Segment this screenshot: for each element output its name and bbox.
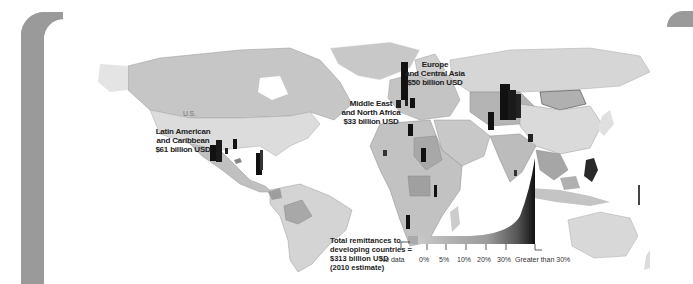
legend-tick-no-data: No data (380, 256, 405, 263)
label-line: Latin American (148, 127, 218, 136)
legend-title-line: developing countries = (330, 245, 412, 254)
scale-bar-indicator (638, 185, 640, 205)
decorative-frame-right (667, 11, 693, 27)
decorative-frame-left (21, 12, 44, 284)
label-line: $50 billion USD (400, 78, 470, 87)
legend-tick-0: 0% (419, 256, 429, 263)
legend-tick-30: 30% (497, 256, 511, 263)
label-line: $61 billion USD (148, 145, 218, 154)
legend-tick-5: 5% (439, 256, 449, 263)
label-latin-america: Latin American and Caribbean $61 billion… (148, 127, 218, 154)
legend-title-line: Total remittances to (330, 236, 412, 245)
label-middle-east-north-africa: Middle East and North Africa $33 billion… (336, 99, 406, 126)
label-line: and Caribbean (148, 136, 218, 145)
label-line: Middle East (336, 99, 406, 108)
legend-tick-greater-30: Greater than 30% (515, 256, 570, 263)
legend-title: Total remittances to developing countrie… (330, 236, 412, 272)
label-us: U.S. (183, 109, 196, 118)
legend-tick-10: 10% (457, 256, 471, 263)
label-line: $33 billion USD (336, 117, 406, 126)
label-europe-central-asia: Europe and Central Asia $50 billion USD (400, 60, 470, 87)
label-line: and Central Asia (400, 69, 470, 78)
decorative-frame-inner (44, 19, 74, 59)
label-line: and North Africa (336, 108, 406, 117)
legend-tick-20: 20% (477, 256, 491, 263)
label-line: Europe (400, 60, 470, 69)
legend-title-line: (2010 estimate) (330, 263, 412, 272)
